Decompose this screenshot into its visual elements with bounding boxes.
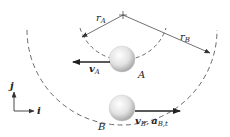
radius-a-label: rA bbox=[96, 12, 106, 25]
radius-b-line bbox=[123, 15, 210, 53]
coordinate-axes: j i bbox=[8, 80, 41, 116]
particle-a-ball bbox=[109, 46, 135, 72]
particle-b-label: B bbox=[97, 121, 105, 132]
velocity-b-label: vB,aB,t bbox=[135, 115, 168, 128]
particle-a-label: A bbox=[137, 69, 145, 80]
radius-b-label: rB bbox=[180, 31, 190, 44]
particle-b-ball bbox=[109, 95, 135, 121]
axis-i-label: i bbox=[37, 105, 41, 116]
axis-j-label: j bbox=[8, 80, 14, 91]
velocity-a-label: vA bbox=[89, 63, 100, 76]
circular-motion-diagram: rA rB A vA B vB,aB,t j i bbox=[0, 0, 230, 137]
